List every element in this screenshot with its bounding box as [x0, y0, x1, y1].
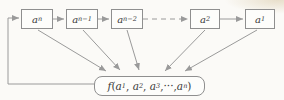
- formula-part: ): [187, 80, 191, 92]
- node-a-n-minus-2: an−2: [111, 9, 143, 29]
- formula-part: n: [38, 16, 42, 23]
- edge-a2-to-f: [165, 30, 205, 71]
- formula-part: 1: [261, 16, 265, 23]
- formula-part: ,: [126, 80, 133, 92]
- node-a-n: an: [21, 9, 53, 29]
- edge-an2-to-f: [127, 30, 139, 70]
- formula-part: n−1: [78, 16, 92, 23]
- edge-a1-to-f: [185, 30, 257, 71]
- node-a-1: a1: [245, 9, 275, 29]
- edge-an1-to-f: [83, 30, 120, 70]
- edge-an-to-f: [38, 30, 106, 71]
- formula-part: ,···,: [160, 80, 177, 92]
- formula-part: n−2: [123, 16, 137, 23]
- formula-part: ,: [143, 80, 150, 92]
- formula-part: 2: [206, 16, 210, 23]
- function-box: f(a1, a2, a3,···,an): [94, 76, 205, 96]
- node-a-n-minus-1: an−1: [66, 9, 98, 29]
- diagram-canvas: an an−1 an−2 a2 a1 f(a1, a2, a3,···,an): [0, 0, 284, 100]
- node-a-2: a2: [190, 9, 220, 29]
